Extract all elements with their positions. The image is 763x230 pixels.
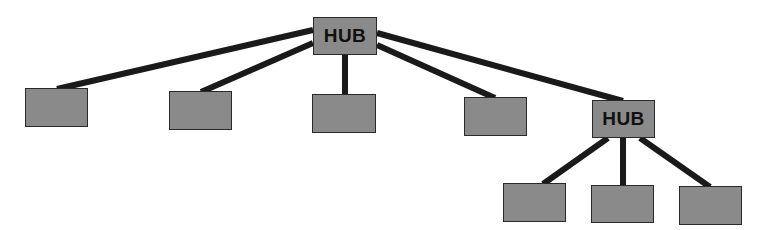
device-node (679, 186, 742, 225)
link-hub2-n5 (543, 138, 608, 184)
hub-node: HUB (313, 17, 377, 55)
device-node (591, 185, 654, 223)
device-node (25, 88, 88, 127)
device-node (503, 183, 566, 222)
device-node (312, 94, 376, 133)
hub-label: HUB (602, 108, 645, 130)
device-node (169, 91, 232, 130)
hub-node: HUB (592, 100, 655, 138)
hub-label: HUB (324, 25, 367, 47)
link-hub1-n4 (377, 45, 495, 98)
device-node (464, 97, 527, 136)
link-hub2-n7 (640, 138, 710, 187)
link-hub1-hub2 (377, 33, 623, 101)
